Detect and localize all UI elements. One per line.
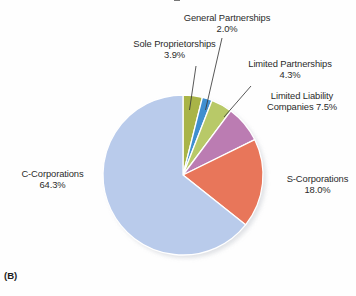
slice-label-name: S-Corporations — [281, 173, 354, 184]
leader-line-limited-partnerships — [224, 86, 251, 117]
panel-label: (B) — [4, 270, 17, 281]
slice-label-name: Sole Proprietorships — [116, 38, 233, 49]
pie-slices-group — [103, 95, 263, 255]
slice-label-name: Limited Partnerships — [232, 58, 348, 69]
slice-label-s-corporations: S-Corporations 18.0% — [281, 173, 354, 196]
slice-label-value: 4.3% — [232, 69, 348, 80]
slice-label-limited-liability-companies: Limited Liability Companies 7.5% — [250, 90, 354, 113]
slice-label-limited-partnerships: Limited Partnerships 4.3% — [232, 58, 348, 81]
slice-label-general-partnerships: General Partnerships 2.0% — [171, 12, 283, 35]
slice-label-value: 64.3% — [7, 179, 98, 190]
slice-label-value: 3.9% — [116, 49, 233, 60]
slice-label-name: Limited Liability — [250, 90, 354, 101]
slice-label-value: Companies 7.5% — [250, 101, 354, 112]
slice-label-name: General Partnerships — [171, 12, 283, 23]
slice-label-sole-proprietorships: Sole Proprietorships 3.9% — [116, 38, 233, 61]
slice-label-value: 2.0% — [171, 23, 283, 34]
pie-chart-figure: General Partnerships 2.0% Sole Proprieto… — [0, 0, 356, 296]
slice-label-value: 18.0% — [281, 184, 354, 195]
slice-label-c-corporations: C-Corporations 64.3% — [7, 168, 98, 191]
slice-label-name: C-Corporations — [7, 168, 98, 179]
